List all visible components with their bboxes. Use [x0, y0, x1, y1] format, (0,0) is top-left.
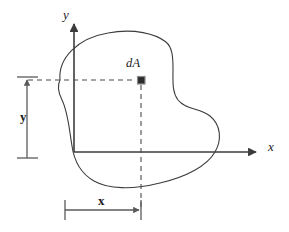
y-axis-label: y [63, 8, 69, 21]
diagram-svg [0, 0, 289, 232]
area-element-marker [138, 77, 146, 85]
axes-group [74, 24, 256, 152]
da-marker-square [138, 77, 146, 85]
figure-canvas: y x dA y x [0, 0, 289, 232]
area-outline-path [58, 31, 219, 188]
y-dimension-label: y [20, 110, 27, 123]
x-axis-label: x [268, 140, 274, 153]
x-dimension-label: x [98, 194, 105, 207]
area-element-label: dA [126, 57, 141, 70]
area-outline-group [58, 31, 219, 188]
